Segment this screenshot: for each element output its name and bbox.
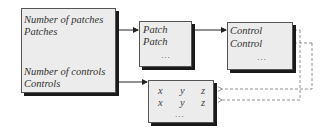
- patch-row: Patch: [143, 37, 168, 48]
- xyz-coordinates-box: x y z x y z ...: [148, 80, 214, 123]
- patch-row: Patch: [143, 25, 168, 36]
- label-patches: Patches: [24, 27, 57, 38]
- x-value: x: [158, 98, 163, 109]
- label-controls: Controls: [24, 79, 60, 90]
- control-list-box: Control Control ...: [227, 22, 293, 70]
- control-row: Control: [230, 39, 262, 50]
- main-record-box: Number of patches Patches Number of cont…: [21, 8, 116, 93]
- z-value: z: [201, 98, 205, 109]
- control-ellipsis: ...: [257, 53, 267, 62]
- patch-ellipsis: ...: [161, 51, 171, 60]
- xyz-ellipsis: ...: [175, 110, 185, 119]
- y-value: y: [180, 98, 185, 109]
- label-number-of-controls: Number of controls: [24, 67, 105, 78]
- y-value: y: [180, 86, 185, 97]
- x-value: x: [158, 86, 163, 97]
- control-row: Control: [230, 26, 262, 37]
- label-number-of-patches: Number of patches: [24, 15, 103, 26]
- patch-list-box: Patch Patch ...: [139, 21, 192, 67]
- z-value: z: [201, 86, 205, 97]
